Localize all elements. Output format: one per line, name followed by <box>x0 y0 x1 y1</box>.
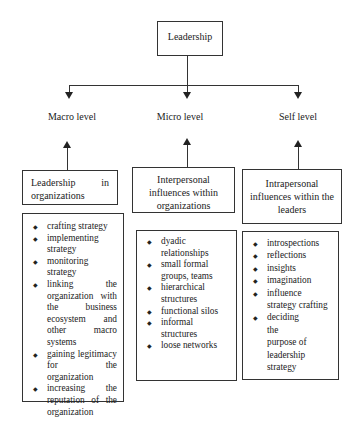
leadership-root-box: Leadership <box>157 21 223 56</box>
list-item: introspections <box>267 237 332 249</box>
macro-level-label: Macro level <box>22 111 122 122</box>
micro-level-label: Micro level <box>130 111 230 122</box>
micro-header-box: Interpersonal influences within organiza… <box>132 167 235 213</box>
root-connector <box>187 56 188 85</box>
arrow-up-icon <box>63 141 71 148</box>
micro-list-box: dyadic relationships small formal groups… <box>136 230 237 381</box>
self-header-box: Intrapersonal influences within the lead… <box>242 169 342 224</box>
list-item: deciding the purpose of leadership strat… <box>267 311 332 373</box>
arrow-down-icon <box>294 92 302 99</box>
list-item: functional silos <box>161 306 230 318</box>
list-item: small formal groups, teams <box>161 259 230 282</box>
macro-list: crafting strategy implementing strategy … <box>23 214 123 421</box>
macro-header-text: Leadership in organizations <box>23 171 117 207</box>
macro-list-box: crafting strategy implementing strategy … <box>22 213 124 402</box>
arrow-up-icon <box>183 138 191 145</box>
micro-up-line <box>187 145 188 167</box>
list-item: linking the organization with the busine… <box>47 279 117 349</box>
self-up-line <box>298 147 299 169</box>
self-level-label: Self level <box>248 111 348 122</box>
list-item: reflections <box>267 249 332 261</box>
list-item: increasing the reputation of the organiz… <box>47 383 117 418</box>
list-item: informal structures <box>161 317 230 340</box>
arrow-up-icon <box>294 140 302 147</box>
micro-header-text: Interpersonal influences within organiza… <box>133 168 234 217</box>
list-item: influence strategy crafting <box>267 287 332 312</box>
self-header-text: Intrapersonal influences within the lead… <box>243 170 341 221</box>
list-item: monitoring strategy <box>47 256 117 279</box>
list-item: dyadic relationships <box>161 236 230 259</box>
micro-list: dyadic relationships small formal groups… <box>137 231 236 358</box>
self-list: introspections reflections insights imag… <box>243 232 338 379</box>
self-list-box: introspections reflections insights imag… <box>242 231 339 380</box>
list-item: gaining legitimacy for the organization <box>47 349 117 384</box>
level-bar <box>69 85 299 86</box>
list-item: crafting strategy <box>47 221 117 233</box>
list-item: insights <box>267 262 332 274</box>
arrow-down-icon <box>183 92 191 99</box>
list-item: imagination <box>267 274 332 286</box>
macro-up-line <box>67 148 68 170</box>
root-label: Leadership <box>158 22 222 42</box>
arrow-down-icon <box>65 92 73 99</box>
list-item: implementing strategy <box>47 233 117 256</box>
list-item: loose networks <box>161 340 230 352</box>
macro-header-box: Leadership in organizations <box>22 170 118 205</box>
list-item: hierarchical structures <box>161 282 230 305</box>
